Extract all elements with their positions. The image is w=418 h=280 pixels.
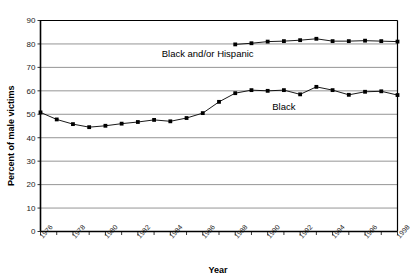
data-point — [266, 40, 270, 44]
data-point — [396, 93, 400, 97]
data-point — [201, 111, 205, 115]
y-tick-label-80: 80 — [27, 40, 36, 49]
data-point — [331, 88, 335, 92]
series-line-2 — [41, 87, 398, 127]
data-point — [71, 122, 75, 126]
data-point — [266, 89, 270, 93]
y-tick-label-50: 50 — [27, 110, 36, 119]
series-label-1: Black and/or Hispanic — [162, 48, 254, 59]
data-point — [136, 120, 140, 124]
data-point — [168, 119, 172, 123]
data-point — [347, 93, 351, 97]
data-point — [282, 88, 286, 92]
data-point — [120, 122, 124, 126]
data-point — [39, 111, 43, 115]
data-point — [250, 41, 254, 45]
data-point — [104, 124, 108, 128]
data-point — [282, 39, 286, 43]
data-point — [233, 91, 237, 95]
data-point — [298, 92, 302, 96]
data-point — [217, 100, 221, 104]
data-point — [314, 37, 318, 41]
y-tick-label-40: 40 — [27, 134, 36, 143]
data-point — [314, 85, 318, 89]
data-point — [87, 125, 91, 129]
series-label-2: Black — [272, 101, 295, 112]
y-tick-label-30: 30 — [27, 157, 36, 166]
data-point — [347, 39, 351, 43]
series-1 — [233, 37, 399, 46]
y-tick-label-10: 10 — [27, 204, 36, 213]
data-point — [331, 39, 335, 43]
data-point — [185, 116, 189, 120]
data-point — [396, 40, 400, 44]
data-point — [298, 38, 302, 42]
y-axis-tick-labels: 0102030405060708090 — [27, 16, 36, 236]
line-chart: 0102030405060708090 19761978198019821984… — [0, 0, 418, 280]
y-axis-title: Percent of male victims — [6, 85, 16, 186]
data-point — [379, 39, 383, 43]
data-point — [363, 90, 367, 94]
data-point — [250, 88, 254, 92]
y-tick-label-20: 20 — [27, 180, 36, 189]
chart-container: 0102030405060708090 19761978198019821984… — [0, 0, 418, 280]
y-tick-label-0: 0 — [31, 227, 36, 236]
data-point — [379, 89, 383, 93]
y-tick-label-90: 90 — [27, 16, 36, 25]
y-tick-label-70: 70 — [27, 63, 36, 72]
data-point — [152, 118, 156, 122]
data-point — [363, 39, 367, 43]
data-point — [55, 118, 59, 122]
x-axis-title: Year — [208, 265, 228, 275]
series-2 — [39, 85, 400, 129]
data-point — [233, 43, 237, 47]
y-tick-label-60: 60 — [27, 87, 36, 96]
series-annotations: Black and/or HispanicBlack — [162, 48, 296, 112]
